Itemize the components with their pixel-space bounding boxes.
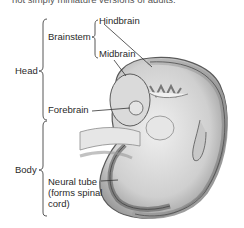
neural-tube-line2: (forms spinal	[48, 187, 102, 198]
head-label: Head	[15, 65, 38, 76]
brainstem-bracket	[92, 20, 98, 58]
head-bracket	[39, 19, 47, 120]
neural-tube-line3: cord)	[48, 198, 102, 209]
hindbrain-leader	[104, 24, 152, 67]
neural-tube-line1: Neural tube	[48, 176, 102, 187]
embryo-diagram	[0, 0, 244, 228]
midbrain-label: Midbrain	[99, 48, 135, 59]
neural-tube-label: Neural tube (forms spinal cord)	[48, 176, 102, 209]
body-bracket	[39, 121, 47, 216]
forebrain-label: Forebrain	[48, 104, 89, 115]
body-label: Body	[15, 164, 37, 175]
hindbrain-label: Hindbrain	[99, 15, 140, 26]
brainstem-label: Brainstem	[48, 31, 91, 42]
